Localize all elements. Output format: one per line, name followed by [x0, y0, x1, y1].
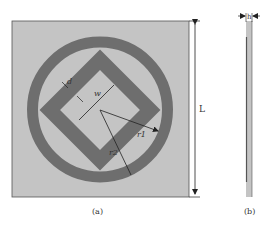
label-d: d: [67, 77, 72, 86]
label-w: w: [94, 89, 101, 98]
dimension-L: L: [189, 21, 205, 197]
figure-canvas: d w r1 r2 L (a): [0, 0, 270, 231]
caption-a: (a): [92, 207, 103, 216]
label-L: L: [199, 104, 205, 114]
panel-b-side-view: h (b): [238, 13, 260, 216]
caption-b: (b): [244, 207, 255, 216]
label-r1: r1: [137, 130, 146, 139]
label-h: h: [247, 13, 252, 21]
dimension-h: h: [238, 13, 260, 22]
label-r2: r2: [109, 148, 118, 157]
panel-a-top-view: d w r1 r2 L (a): [12, 21, 205, 216]
